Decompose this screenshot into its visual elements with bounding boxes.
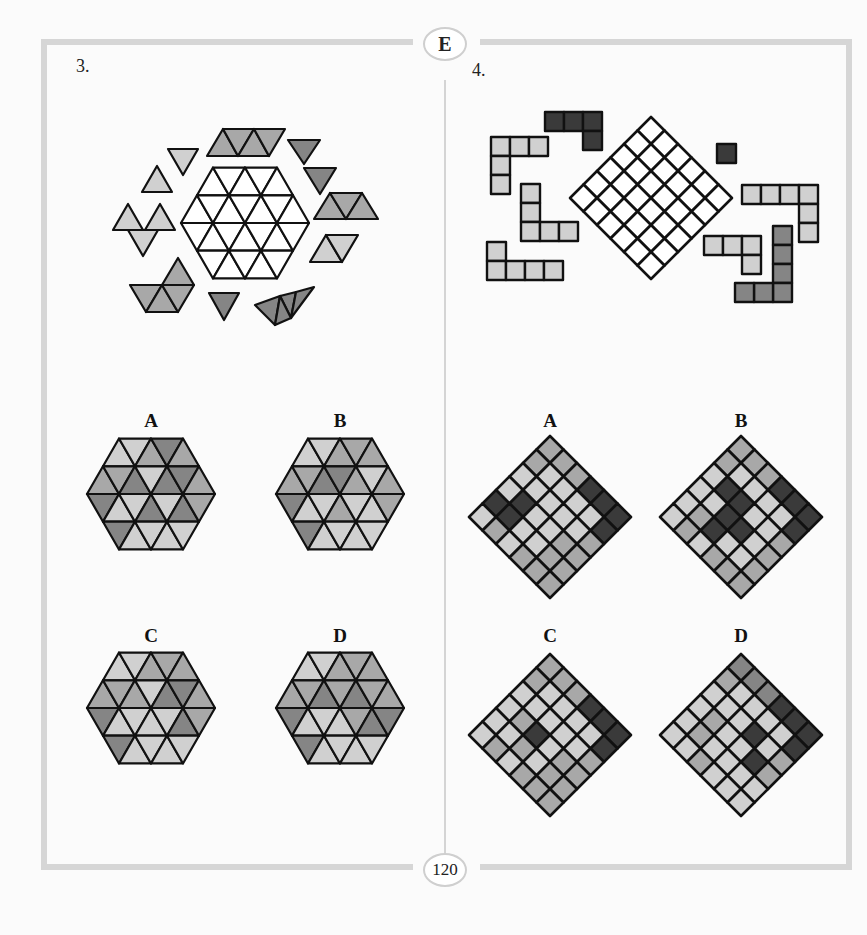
option-4d-diamond[interactable] xyxy=(0,0,867,935)
